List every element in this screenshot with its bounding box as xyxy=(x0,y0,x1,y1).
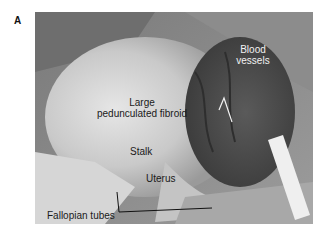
label-stalk: Stalk xyxy=(130,146,152,157)
label-blood-vessels: Blood vessels xyxy=(225,44,281,66)
label-vessels-line2: vessels xyxy=(225,55,281,66)
label-vessels-line1: Blood xyxy=(225,44,281,55)
label-fallopian-tubes: Fallopian tubes xyxy=(47,210,115,221)
label-fibroid: Large pedunculated fibroid xyxy=(72,97,212,119)
label-fibroid-line1: Large xyxy=(72,97,212,108)
label-fibroid-line2: pedunculated fibroid xyxy=(72,108,212,119)
label-uterus: Uterus xyxy=(146,173,175,184)
panel-letter: A xyxy=(14,15,21,26)
